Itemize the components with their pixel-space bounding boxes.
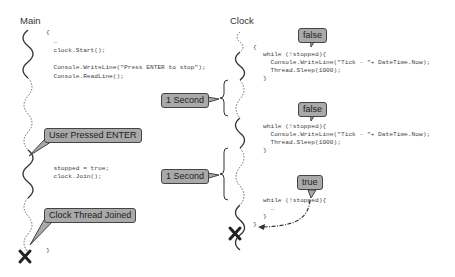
- main-code-clock-join: clock.Join();: [46, 173, 102, 181]
- brace-1-second-2: [220, 148, 228, 200]
- one-second-callout-1: 1 Second: [161, 93, 209, 108]
- main-thread-end-x-icon: [20, 251, 30, 262]
- clock-loop1-sleep: Thread.Sleep(1000);: [263, 67, 341, 75]
- clock-thread-active-line-2: [236, 118, 245, 148]
- loop-exit-arrowhead: [258, 224, 265, 230]
- main-code-stopped-true: stopped = true;: [46, 165, 109, 173]
- main-code-clock-start: clock.Start();: [46, 47, 105, 55]
- clock-loop3-close: }: [263, 213, 267, 221]
- clock-thread-active-line-1: [236, 52, 245, 80]
- false-callout-2: false: [298, 102, 327, 117]
- clock-loop2-sleep: Thread.Sleep(1000);: [263, 139, 341, 147]
- clock-loop3-ellipsis: …: [263, 205, 274, 213]
- main-code-writeline: Console.WriteLine("Press ENTER to stop")…: [46, 64, 206, 72]
- clock-thread-sleep-line-1: [236, 80, 244, 118]
- false-callout-1: false: [298, 28, 327, 43]
- clock-loop1-writeline: Console.WriteLine("Tick - "+ DateTime.No…: [263, 59, 430, 67]
- main-thread-blocked-line: [24, 78, 32, 150]
- one-second-callout-2: 1 Second: [161, 169, 209, 184]
- clock-loop2-while: while (!stopped){: [263, 123, 326, 131]
- main-code-open-brace: {: [46, 29, 50, 37]
- main-thread-active-line-2: [23, 150, 33, 198]
- clock-thread-joined-callout: Clock Thread Joined: [44, 208, 136, 223]
- clock-loop2-close: }: [263, 147, 267, 155]
- user-pressed-enter-callout: User Pressed ENTER: [44, 128, 142, 143]
- clock-thread-end-x-icon: [230, 228, 240, 239]
- clock-thread-joined-pointer: [30, 220, 54, 245]
- true-callout: true: [297, 175, 323, 190]
- brace-1-second-1: [220, 80, 228, 116]
- clock-loop2-writeline: Console.WriteLine("Tick - "+ DateTime.No…: [263, 131, 430, 139]
- clock-code-close-brace: }: [253, 221, 257, 229]
- clock-loop3-while: while (!stopped){: [263, 197, 326, 205]
- main-thread-active-line: [23, 30, 33, 78]
- clock-thread-sleep-line-2: [236, 148, 244, 205]
- clock-loop1-while: while (!stopped){: [263, 51, 326, 59]
- clock-loop1-close: }: [263, 75, 267, 83]
- main-code-ellipsis: …: [46, 38, 57, 46]
- main-code-readline: Console.ReadLine();: [46, 73, 124, 81]
- clock-thread-start-line: [237, 32, 243, 52]
- main-code-close-brace: }: [46, 247, 50, 255]
- clock-code-open-brace: {: [253, 44, 257, 52]
